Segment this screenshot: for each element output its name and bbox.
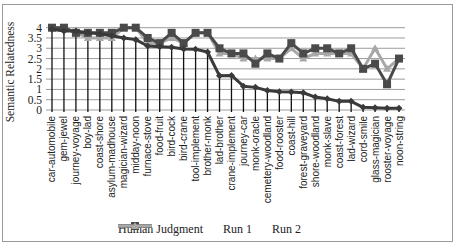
x-tick-label: rooster-voyage — [382, 116, 393, 183]
square-marker — [311, 44, 319, 52]
square-marker — [204, 29, 212, 37]
square-marker — [395, 55, 403, 63]
legend-label: Run 2 — [272, 222, 301, 237]
x-tick-label: monk-slave — [322, 116, 333, 168]
y-tick-label: 0 — [36, 104, 42, 116]
x-tick-label: asylum-madhouse — [106, 116, 117, 198]
x-tick-label: glass-magician — [370, 116, 381, 183]
x-tick-label: food-rooster — [274, 115, 285, 170]
square-marker — [132, 24, 140, 32]
x-tick-label: coast-shore — [94, 116, 105, 169]
x-tick-label: monk-oracle — [250, 116, 261, 171]
x-tick-label: noon-string — [394, 116, 405, 166]
square-marker — [216, 44, 224, 52]
y-tick-label: 2.5 — [28, 53, 43, 65]
square-marker — [251, 60, 259, 68]
x-tick-label: cemetery-woodland — [262, 116, 273, 203]
x-tick-label: midday-noon — [130, 116, 141, 174]
legend: Human Judgment Run 1 Run 2 — [118, 220, 301, 238]
x-tick-label: lad-brother — [214, 115, 225, 164]
y-tick-label: 3.5 — [28, 32, 43, 44]
square-marker — [383, 80, 391, 88]
x-tick-label: journey-voyage — [70, 116, 81, 186]
x-tick-label: coast-hill — [286, 116, 297, 155]
x-tick-label: car-automobile — [46, 116, 57, 183]
square-marker — [299, 49, 307, 57]
legend-item-run-1: Run 1 — [223, 222, 252, 237]
square-marker — [359, 65, 367, 73]
x-tick-label: magician-wizard — [118, 116, 129, 188]
square-marker — [287, 39, 295, 47]
x-tick-label: forest-graveyard — [298, 116, 309, 189]
x-tick-label: brother-monk — [202, 115, 213, 175]
x-tick-label: furnace-stove — [142, 116, 153, 177]
diamond-marker — [192, 46, 199, 53]
square-marker — [371, 60, 379, 68]
diamond-marker — [168, 44, 175, 51]
x-axis: car-automobilegem-jeweljourney-voyageboy… — [46, 115, 404, 203]
diamond-marker — [120, 34, 127, 41]
x-tick-label: bird-crane — [178, 116, 189, 161]
y-axis: 00.511.522.533.54 — [28, 22, 43, 116]
x-tick-label: crane-implement — [226, 116, 237, 191]
square-marker — [335, 49, 343, 57]
legend-item-run-2: Run 2 — [272, 222, 301, 237]
square-marker — [144, 34, 152, 42]
x-tick-label: cord-smile — [358, 116, 369, 163]
square-marker — [323, 44, 331, 52]
triangle-line-icon — [118, 220, 152, 232]
square-marker — [227, 49, 235, 57]
square-marker — [192, 29, 200, 37]
x-tick-label: boy-lad — [82, 116, 93, 149]
y-tick-label: 1 — [36, 83, 42, 95]
legend-label: Run 1 — [223, 222, 252, 237]
square-marker — [168, 29, 176, 37]
x-tick-label: food-fruit — [154, 116, 165, 156]
x-tick-label: shore-woodland — [310, 116, 321, 187]
series-lines — [48, 24, 403, 112]
x-tick-label: gem-jewel — [58, 116, 69, 162]
x-tick-label: bird-cock — [166, 115, 177, 157]
x-tick-label: journey-car — [238, 115, 249, 167]
square-marker — [263, 49, 271, 57]
y-axis-label: Semantic Relatedness — [4, 21, 16, 122]
y-tick-label: 0.5 — [28, 94, 43, 106]
line-chart: 00.511.522.533.54 car-automobilegem-jewe… — [0, 0, 457, 249]
diamond-marker — [396, 105, 403, 112]
y-tick-label: 4 — [36, 22, 42, 34]
y-tick-label: 3 — [36, 42, 42, 54]
square-marker — [347, 44, 355, 52]
y-tick-label: 1.5 — [28, 73, 43, 85]
square-marker — [275, 55, 283, 63]
diamond-marker — [384, 105, 391, 112]
square-marker — [239, 49, 247, 57]
y-tick-label: 2 — [36, 63, 42, 75]
x-tick-label: coast-forest — [334, 116, 345, 168]
x-tick-label: lad-wizard — [346, 116, 357, 162]
diamond-marker — [324, 95, 331, 102]
square-marker — [120, 24, 128, 32]
x-tick-label: tool-implement — [190, 116, 201, 182]
diamond-marker — [336, 98, 343, 105]
diamond-marker — [264, 87, 271, 94]
